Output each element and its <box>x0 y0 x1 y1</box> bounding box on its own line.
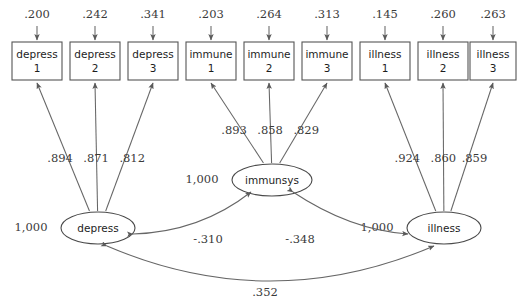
indicator-immune3: immune3.313 <box>302 7 352 80</box>
sem-path-diagram: depress1.200depress2.242depress3.341immu… <box>0 0 521 307</box>
latent-variance-depress: 1,000 <box>15 220 48 234</box>
indicator-name-immune1: immune <box>189 48 232 60</box>
loading-label-depress3: .812 <box>119 151 145 165</box>
loading-arrow-illness1 <box>385 83 436 211</box>
indicator-index-depress3: 3 <box>150 62 157 74</box>
indicator-index-illness2: 2 <box>440 62 447 74</box>
loading-depress2: .871 <box>83 83 109 211</box>
covariance-label-depress-illness: .352 <box>252 285 278 299</box>
loading-illness2: .860 <box>431 83 457 211</box>
indicator-name-immune3: immune <box>305 48 348 60</box>
covariance-depress-immunsys: -.310 <box>133 192 251 246</box>
loading-depress1: .894 <box>37 83 89 211</box>
error-variance-depress3: .341 <box>140 7 166 21</box>
loading-label-immune3: .829 <box>293 123 319 137</box>
loading-label-depress2: .871 <box>83 151 109 165</box>
sem-canvas: depress1.200depress2.242depress3.341immu… <box>0 0 521 307</box>
indicator-name-illness3: illness <box>477 48 510 60</box>
loading-arrow-depress3 <box>106 83 153 211</box>
error-variance-immune1: .203 <box>198 7 224 21</box>
indicator-index-illness3: 3 <box>490 62 497 74</box>
indicator-name-immune2: immune <box>247 48 290 60</box>
indicator-index-immune2: 2 <box>266 62 273 74</box>
error-variance-illness2: .260 <box>430 7 456 21</box>
loading-depress3: .812 <box>106 83 153 211</box>
loading-illness1: .924 <box>385 83 436 211</box>
error-variance-immune3: .313 <box>314 7 340 21</box>
covariance-label-immunsys-illness: -.348 <box>285 232 315 246</box>
indicator-illness3: illness3.263 <box>470 7 516 80</box>
covariance-curve-depress-illness <box>107 246 434 281</box>
latent-label-depress: depress <box>77 222 118 234</box>
loading-label-illness3: .859 <box>462 151 488 165</box>
loading-arrow-illness3 <box>451 83 493 211</box>
loading-label-illness1: .924 <box>395 151 421 165</box>
loading-label-depress1: .894 <box>47 151 73 165</box>
indicator-depress1: depress1.200 <box>12 7 62 80</box>
indicator-index-immune3: 3 <box>324 62 331 74</box>
indicator-index-depress2: 2 <box>92 62 99 74</box>
error-variance-immune2: .264 <box>256 7 282 21</box>
indicator-depress2: depress2.242 <box>70 7 120 80</box>
loading-immune1: .893 <box>211 83 263 163</box>
covariance-label-depress-immunsys: -.310 <box>193 232 223 246</box>
covariance-curve-depress-immunsys <box>133 192 251 234</box>
loading-label-immune1: .893 <box>221 123 247 137</box>
error-variance-depress2: .242 <box>82 7 108 21</box>
indicator-depress3: depress3.341 <box>128 7 178 80</box>
indicator-name-depress1: depress <box>16 48 57 60</box>
covariance-layer: -.310-.348.352 <box>107 192 434 299</box>
covariance-depress-illness: .352 <box>107 246 434 299</box>
loading-illness3: .859 <box>451 83 493 211</box>
error-variance-depress1: .200 <box>24 7 50 21</box>
latent-label-immunsys: immunsys <box>245 174 299 186</box>
loading-immune3: .829 <box>280 83 327 163</box>
error-variance-illness3: .263 <box>480 7 506 21</box>
indicator-layer: depress1.200depress2.242depress3.341immu… <box>12 7 516 80</box>
indicator-immune1: immune1.203 <box>186 7 236 80</box>
covariance-immunsys-illness: -.348 <box>285 192 408 246</box>
latent-variable-layer: depress1,000immunsys1,000illness1,000 <box>15 164 481 244</box>
loading-arrow-depress2 <box>95 83 98 211</box>
latent-illness: illness1,000 <box>361 212 481 244</box>
loading-arrow-illness2 <box>443 83 444 211</box>
loading-arrow-depress1 <box>37 83 89 211</box>
latent-label-illness: illness <box>428 222 461 234</box>
indicator-name-illness2: illness <box>427 48 460 60</box>
loading-label-immune2: .858 <box>257 123 283 137</box>
indicator-illness1: illness1.145 <box>360 7 410 80</box>
indicator-immune2: immune2.264 <box>244 7 294 80</box>
indicator-illness2: illness2.260 <box>418 7 468 80</box>
error-variance-illness1: .145 <box>372 7 398 21</box>
latent-immunsys: immunsys1,000 <box>186 164 312 196</box>
indicator-index-illness1: 1 <box>382 62 389 74</box>
latent-depress: depress1,000 <box>15 212 135 244</box>
indicator-name-depress3: depress <box>132 48 173 60</box>
loading-label-illness2: .860 <box>431 151 457 165</box>
indicator-index-depress1: 1 <box>34 62 41 74</box>
latent-variance-immunsys: 1,000 <box>186 172 219 186</box>
loading-immune2: .858 <box>257 83 283 163</box>
indicator-index-immune1: 1 <box>208 62 215 74</box>
indicator-name-depress2: depress <box>74 48 115 60</box>
indicator-name-illness1: illness <box>369 48 402 60</box>
